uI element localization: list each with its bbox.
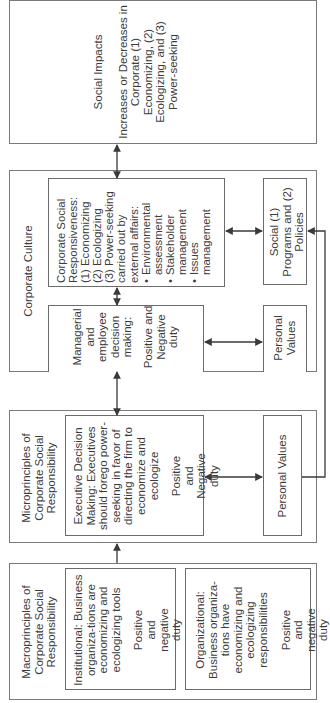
arrow-values-to-programs — [302, 231, 325, 477]
